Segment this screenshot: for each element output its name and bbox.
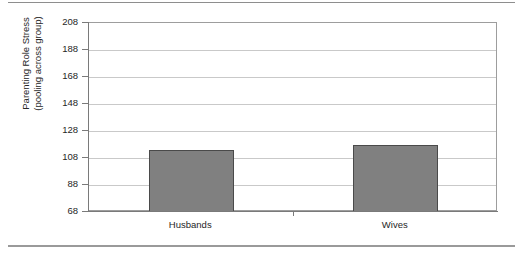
y-axis-tick-label: 108 [32, 152, 78, 162]
top-divider-rule [8, 2, 515, 3]
y-axis-tick [82, 130, 88, 131]
y-axis-tick-label: 68 [32, 206, 78, 216]
gridline [89, 104, 496, 105]
y-axis-tick [82, 76, 88, 77]
y-axis-tick-label: 188 [32, 44, 78, 54]
gridline [89, 50, 496, 51]
plot-area [88, 22, 497, 211]
y-axis-line [88, 22, 89, 212]
y-axis-tick [82, 157, 88, 158]
figure-container: Parenting Role Stress (pooling across gr… [0, 0, 523, 259]
y-axis-tick [82, 22, 88, 23]
bottom-divider-rule [8, 245, 515, 247]
gridline [89, 131, 496, 132]
x-axis-category-label: Wives [382, 219, 408, 230]
y-axis-tick-label: 168 [32, 71, 78, 81]
bar-husbands [149, 150, 234, 212]
x-axis-category-label: Husbands [169, 219, 212, 230]
y-axis-tick-label: 208 [32, 17, 78, 27]
x-axis-tick [293, 211, 294, 216]
y-axis-tick [82, 211, 88, 212]
y-axis-tick-label: 148 [32, 98, 78, 108]
bar-wives [353, 145, 438, 213]
y-axis-tick [82, 103, 88, 104]
gridline [89, 77, 496, 78]
y-axis-tick-label: 128 [32, 125, 78, 135]
y-axis-tick [82, 49, 88, 50]
y-axis-tick-labels: 6888108128148168188208 [26, 0, 78, 259]
y-axis-tick-label: 88 [32, 179, 78, 189]
y-axis-tick [82, 184, 88, 185]
